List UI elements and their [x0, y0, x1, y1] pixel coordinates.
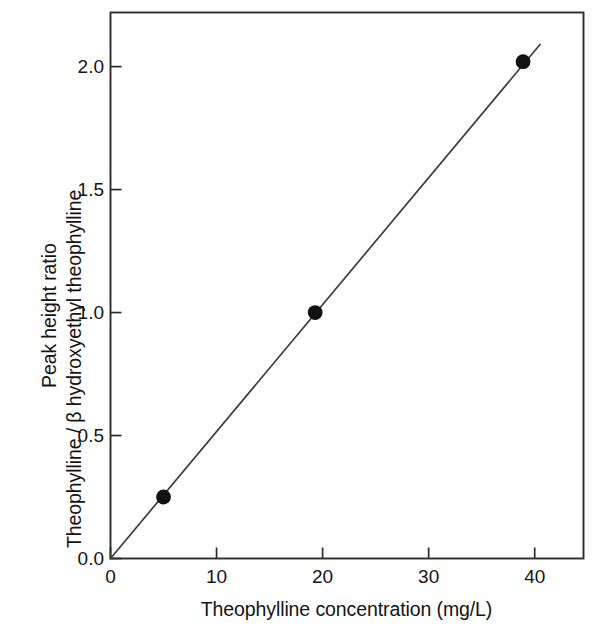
- axis-frame: [111, 13, 584, 559]
- axis-ticks: [111, 67, 535, 559]
- data-point-0-0: [156, 490, 171, 505]
- data-series: [111, 44, 541, 558]
- chart-figure: Peak height ratio Theophylline / β hydro…: [0, 0, 602, 637]
- data-point-0-2: [516, 54, 531, 69]
- x-axis-title: Theophylline concentration (mg/L): [110, 598, 583, 621]
- plot-area: [0, 0, 602, 637]
- regression-line: [111, 44, 541, 558]
- data-point-0-1: [308, 305, 323, 320]
- plot-frame-box: [111, 13, 584, 559]
